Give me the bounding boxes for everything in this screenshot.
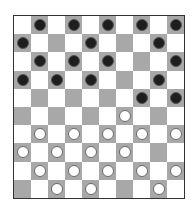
square-r8-c9[interactable]: [167, 162, 184, 180]
square-r9-c4[interactable]: [82, 180, 99, 198]
square-r2-c7[interactable]: [133, 52, 150, 70]
square-r0-c3[interactable]: [65, 16, 82, 34]
black-piece[interactable]: [102, 19, 114, 31]
square-r0-c2: [48, 16, 65, 34]
white-piece[interactable]: [170, 165, 182, 177]
black-piece[interactable]: [136, 19, 148, 31]
square-r4-c4: [82, 89, 99, 107]
white-piece[interactable]: [153, 183, 165, 195]
square-r3-c2[interactable]: [48, 71, 65, 89]
square-r4-c1[interactable]: [31, 89, 48, 107]
white-piece[interactable]: [68, 128, 80, 140]
white-piece[interactable]: [17, 146, 29, 158]
square-r9-c6[interactable]: [116, 180, 133, 198]
white-piece[interactable]: [34, 165, 46, 177]
square-r2-c1[interactable]: [31, 52, 48, 70]
square-r2-c9[interactable]: [167, 52, 184, 70]
square-r3-c8[interactable]: [150, 71, 167, 89]
square-r8-c3[interactable]: [65, 162, 82, 180]
white-piece[interactable]: [136, 128, 148, 140]
black-piece[interactable]: [85, 74, 97, 86]
square-r5-c0[interactable]: [14, 107, 31, 125]
black-piece[interactable]: [85, 37, 97, 49]
square-r4-c7[interactable]: [133, 89, 150, 107]
square-r0-c5[interactable]: [99, 16, 116, 34]
square-r4-c3[interactable]: [65, 89, 82, 107]
square-r8-c7[interactable]: [133, 162, 150, 180]
square-r3-c3: [65, 71, 82, 89]
square-r4-c5[interactable]: [99, 89, 116, 107]
white-piece[interactable]: [85, 183, 97, 195]
white-piece[interactable]: [51, 183, 63, 195]
square-r7-c3: [65, 143, 82, 161]
white-piece[interactable]: [102, 165, 114, 177]
square-r6-c9[interactable]: [167, 125, 184, 143]
black-piece[interactable]: [68, 55, 80, 67]
black-piece[interactable]: [17, 74, 29, 86]
square-r5-c4[interactable]: [82, 107, 99, 125]
square-r9-c2[interactable]: [48, 180, 65, 198]
square-r5-c2[interactable]: [48, 107, 65, 125]
square-r6-c5[interactable]: [99, 125, 116, 143]
square-r0-c9[interactable]: [167, 16, 184, 34]
square-r9-c8[interactable]: [150, 180, 167, 198]
square-r5-c6[interactable]: [116, 107, 133, 125]
square-r7-c1: [31, 143, 48, 161]
white-piece[interactable]: [136, 165, 148, 177]
white-piece[interactable]: [170, 128, 182, 140]
square-r2-c8: [150, 52, 167, 70]
square-r7-c4[interactable]: [82, 143, 99, 161]
square-r3-c4[interactable]: [82, 71, 99, 89]
square-r7-c2[interactable]: [48, 143, 65, 161]
square-r9-c0[interactable]: [14, 180, 31, 198]
square-r2-c2: [48, 52, 65, 70]
white-piece[interactable]: [51, 146, 63, 158]
square-r5-c9: [167, 107, 184, 125]
square-r1-c2[interactable]: [48, 34, 65, 52]
square-r0-c7[interactable]: [133, 16, 150, 34]
square-r7-c8[interactable]: [150, 143, 167, 161]
square-r6-c7[interactable]: [133, 125, 150, 143]
black-piece[interactable]: [17, 37, 29, 49]
square-r1-c4[interactable]: [82, 34, 99, 52]
black-piece[interactable]: [102, 55, 114, 67]
square-r1-c0[interactable]: [14, 34, 31, 52]
black-piece[interactable]: [34, 55, 46, 67]
square-r1-c3: [65, 34, 82, 52]
square-r4-c9[interactable]: [167, 89, 184, 107]
square-r2-c3[interactable]: [65, 52, 82, 70]
white-piece[interactable]: [102, 128, 114, 140]
white-piece[interactable]: [34, 128, 46, 140]
black-piece[interactable]: [153, 37, 165, 49]
square-r1-c6[interactable]: [116, 34, 133, 52]
square-r3-c9: [167, 71, 184, 89]
black-piece[interactable]: [136, 92, 148, 104]
white-piece[interactable]: [85, 146, 97, 158]
square-r9-c1: [31, 180, 48, 198]
square-r6-c3[interactable]: [65, 125, 82, 143]
square-r5-c8[interactable]: [150, 107, 167, 125]
square-r0-c1[interactable]: [31, 16, 48, 34]
square-r1-c1: [31, 34, 48, 52]
black-piece[interactable]: [34, 19, 46, 31]
square-r7-c0[interactable]: [14, 143, 31, 161]
black-piece[interactable]: [153, 74, 165, 86]
square-r3-c6[interactable]: [116, 71, 133, 89]
square-r8-c5[interactable]: [99, 162, 116, 180]
square-r0-c0: [14, 16, 31, 34]
black-piece[interactable]: [68, 19, 80, 31]
white-piece[interactable]: [119, 110, 131, 122]
white-piece[interactable]: [68, 165, 80, 177]
square-r8-c1[interactable]: [31, 162, 48, 180]
square-r2-c5[interactable]: [99, 52, 116, 70]
square-r0-c6: [116, 16, 133, 34]
black-piece[interactable]: [170, 92, 182, 104]
black-piece[interactable]: [170, 19, 182, 31]
square-r7-c6[interactable]: [116, 143, 133, 161]
square-r3-c0[interactable]: [14, 71, 31, 89]
white-piece[interactable]: [119, 146, 131, 158]
black-piece[interactable]: [51, 74, 63, 86]
square-r6-c1[interactable]: [31, 125, 48, 143]
square-r1-c8[interactable]: [150, 34, 167, 52]
black-piece[interactable]: [170, 55, 182, 67]
